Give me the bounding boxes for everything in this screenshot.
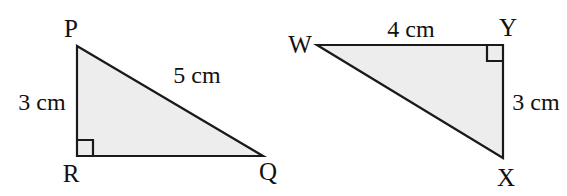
geometry-figure: P Q R 3 cm 5 cm W X Y 4 cm 3 cm [0, 0, 567, 196]
vertex-label-q: Q [259, 158, 277, 185]
vertex-label-x: X [497, 164, 515, 191]
vertex-label-y: Y [499, 14, 517, 41]
triangle-pqr-shape [77, 46, 263, 156]
triangle-wxy: W X Y 4 cm 3 cm [288, 14, 560, 191]
measure-label-xy: 3 cm [512, 89, 560, 115]
triangle-wxy-shape [317, 45, 503, 158]
measure-label-wy: 4 cm [387, 16, 435, 42]
measure-label-pq: 5 cm [173, 62, 221, 88]
measure-label-pr: 3 cm [18, 89, 66, 115]
vertex-label-w: W [288, 31, 312, 58]
vertex-label-p: P [64, 15, 78, 42]
triangle-pqr: P Q R 3 cm 5 cm [18, 15, 277, 187]
vertex-label-r: R [63, 160, 80, 187]
geometry-canvas: P Q R 3 cm 5 cm W X Y 4 cm 3 cm [0, 0, 567, 196]
